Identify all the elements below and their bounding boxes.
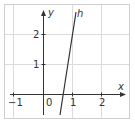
tick-x-0: 0 — [46, 97, 52, 108]
plot-frame — [5, 5, 130, 119]
tick-x-neg1: −1 — [8, 97, 23, 108]
tick-y-1: 1 — [33, 59, 39, 70]
tick-y-2: 2 — [33, 29, 39, 40]
tick-x-1: 1 — [70, 97, 76, 108]
function-graph: x y h −1 0 1 2 1 2 — [0, 0, 135, 124]
tick-x-2: 2 — [99, 97, 105, 108]
x-axis-label: x — [117, 81, 124, 92]
y-axis-label: y — [47, 7, 55, 18]
line-h-label: h — [77, 8, 83, 19]
